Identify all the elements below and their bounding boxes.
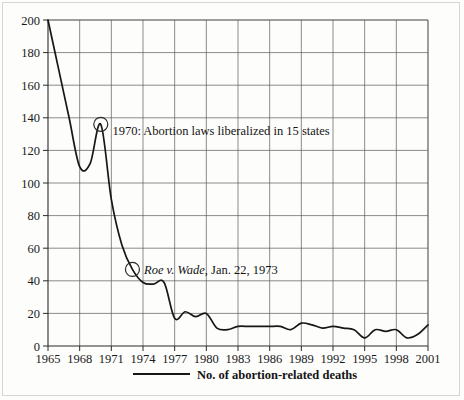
- x-tick-label: 1971: [99, 352, 124, 366]
- annot-1970-label: 1970: Abortion laws liberalized in 15 st…: [112, 124, 329, 138]
- x-tick-label: 1998: [384, 352, 409, 366]
- y-tick-label: 20: [28, 307, 41, 321]
- x-tick-label: 1974: [131, 352, 157, 366]
- annot-roe-case-name: Roe v. Wade: [143, 263, 205, 277]
- x-tick-label: 1983: [226, 352, 251, 366]
- y-tick-label: 120: [21, 144, 40, 158]
- y-tick-label: 80: [28, 209, 41, 223]
- y-tick-label: 180: [21, 46, 40, 60]
- legend-label: No. of abortion-related deaths: [197, 368, 357, 382]
- line-chart: 0204060801001201401601802001965196819711…: [0, 0, 464, 400]
- chart-figure: 0204060801001201401601802001965196819711…: [0, 0, 464, 400]
- x-tick-label: 1995: [352, 352, 377, 366]
- x-tick-label: 1989: [289, 352, 314, 366]
- y-tick-label: 100: [21, 177, 40, 191]
- x-tick-label: 2001: [416, 352, 441, 366]
- y-tick-label: 200: [21, 14, 40, 28]
- y-tick-label: 60: [28, 242, 41, 256]
- x-tick-label: 1968: [67, 352, 92, 366]
- x-tick-label: 1977: [162, 352, 187, 366]
- x-tick-label: 1980: [194, 352, 219, 366]
- y-tick-label: 40: [28, 274, 41, 288]
- y-tick-label: 140: [21, 111, 40, 125]
- x-tick-label: 1986: [257, 352, 282, 366]
- y-tick-label: 160: [21, 79, 40, 93]
- x-tick-label: 1992: [321, 352, 346, 366]
- annot-roe-label: Roe v. Wade, Jan. 22, 1973: [143, 263, 278, 277]
- x-tick-label: 1965: [36, 352, 61, 366]
